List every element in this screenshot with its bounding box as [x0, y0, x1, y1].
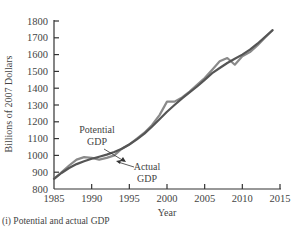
- y-tick-label: 1100: [27, 133, 48, 144]
- x-axis-ticks: 1985199019952000200520102015: [44, 184, 291, 204]
- y-axis-title: Billions of 2007 Dollars: [3, 55, 14, 152]
- x-tick-label: 1985: [44, 193, 65, 204]
- y-tick-label: 900: [32, 167, 48, 178]
- y-tick-label: 1800: [27, 16, 48, 27]
- y-tick-label: 1700: [27, 32, 48, 43]
- x-tick-label: 2010: [232, 193, 253, 204]
- x-axis-title: Year: [158, 207, 177, 218]
- svg-text:Potential: Potential: [79, 124, 115, 135]
- y-tick-label: 1000: [27, 150, 48, 161]
- x-tick-label: 1990: [81, 193, 102, 204]
- x-tick-label: 2015: [270, 193, 291, 204]
- actual-arrow: [118, 162, 134, 167]
- y-tick-label: 1200: [27, 116, 48, 127]
- x-tick-label: 1995: [119, 193, 140, 204]
- y-tick-label: 1600: [27, 49, 48, 60]
- y-tick-label: 1500: [27, 66, 48, 77]
- actual-gdp-annotation: Actual GDP: [116, 160, 161, 184]
- figure-caption: (i) Potential and actual GDP: [2, 216, 110, 226]
- arrowhead-icon: [116, 160, 121, 164]
- x-tick-label: 2000: [157, 193, 178, 204]
- gdp-chart: 8009001000110012001300140015001600170018…: [0, 0, 308, 231]
- x-tick-label: 2005: [194, 193, 215, 204]
- svg-text:GDP: GDP: [137, 173, 157, 184]
- y-tick-label: 1300: [27, 100, 48, 111]
- svg-text:GDP: GDP: [87, 136, 107, 147]
- svg-text:Actual: Actual: [134, 161, 161, 172]
- y-tick-label: 1400: [27, 83, 48, 94]
- plot-series: [54, 30, 273, 179]
- actual-gdp-line: [54, 30, 273, 179]
